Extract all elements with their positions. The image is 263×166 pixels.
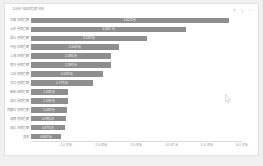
- category-label: 湖北市销售额: [10, 126, 29, 130]
- bar-row[interactable]: 新区域销售额1.05亿元: [31, 89, 242, 95]
- bar-row[interactable]: 湖北市销售额0.97亿元: [31, 125, 242, 131]
- category-label: 巴黎市销售额: [10, 18, 29, 22]
- bar-value-label: 2.05亿元: [61, 73, 73, 76]
- bar-row[interactable]: 湖南省销售额0.99亿元: [31, 116, 242, 122]
- mouse-cursor: [225, 94, 232, 103]
- filter-icon[interactable]: [232, 8, 237, 13]
- bar-value-label: 5.62亿元: [124, 19, 136, 22]
- bar-row[interactable]: 江苏省销售额2.05亿元: [31, 71, 242, 77]
- category-label: 其他: [23, 135, 29, 139]
- category-label: 河北省销售额: [10, 81, 29, 85]
- x-tick-label: 5.0 亿元: [201, 143, 213, 148]
- category-label: 新区域销售额: [10, 90, 29, 94]
- chart-title: 各省市地区销售额排名: [12, 7, 44, 12]
- bar-row[interactable]: 山东省销售额4.41亿元: [31, 27, 242, 33]
- bar-row[interactable]: 内蒙古省销售额1.03亿元: [31, 107, 242, 113]
- x-tick-label: 6.0 亿元: [236, 143, 248, 148]
- bar-row[interactable]: 湖北省销售额1.05亿元: [31, 98, 242, 104]
- bar-row[interactable]: 上海市销售额2.28亿元: [31, 53, 242, 59]
- x-axis-line: [31, 141, 242, 142]
- category-label: 南方省销售额: [10, 63, 29, 67]
- bar-value-label: 0.97亿元: [42, 126, 54, 129]
- bar-value-label: 3.31亿元: [83, 37, 95, 40]
- bar-rows: 巴黎市销售额5.62亿元山东省销售额4.41亿元浙江省销售额3.31亿元中国市销…: [31, 16, 242, 141]
- x-tick-label: 1.0 亿元: [60, 143, 72, 148]
- x-tick-label: 2.0 亿元: [95, 143, 107, 148]
- download-icon[interactable]: [240, 8, 245, 13]
- category-label: 中国市销售额: [10, 45, 29, 49]
- plot-area: 巴黎市销售额5.62亿元山东省销售额4.41亿元浙江省销售额3.31亿元中国市销…: [31, 16, 242, 141]
- bar-value-label: 2.50亿元: [69, 46, 81, 49]
- bar-value-label: 1.03亿元: [43, 108, 55, 111]
- bar-row[interactable]: 河北省销售额1.77亿元: [31, 80, 242, 86]
- category-label: 湖北省销售额: [10, 99, 29, 103]
- bar-row[interactable]: 其他0.86亿元: [31, 134, 242, 140]
- category-label: 山东省销售额: [10, 27, 29, 31]
- category-label: 浙江省销售额: [10, 36, 29, 40]
- bar-row[interactable]: 中国市销售额2.50亿元: [31, 44, 242, 50]
- bar-value-label: 4.41亿元: [102, 28, 114, 31]
- bar-row[interactable]: 南方省销售额2.28亿元: [31, 62, 242, 68]
- bar-value-label: 2.28亿元: [65, 55, 77, 58]
- bar-value-label: 1.05亿元: [43, 99, 55, 102]
- category-label: 内蒙古省销售额: [7, 108, 29, 112]
- bar-value-label: 2.28亿元: [65, 64, 77, 67]
- more-icon[interactable]: [248, 8, 253, 13]
- x-tick-label: 4.0 亿元: [166, 143, 178, 148]
- x-axis-ticks: 1.0 亿元2.0 亿元3.0 亿元4.0 亿元5.0 亿元6.0 亿元: [31, 143, 242, 151]
- bar-value-label: 1.05亿元: [43, 90, 55, 93]
- x-tick-label: 3.0 亿元: [131, 143, 143, 148]
- chart-toolbar[interactable]: [232, 7, 253, 14]
- category-label: 江苏省销售额: [10, 72, 29, 76]
- bar-value-label: 0.86亿元: [40, 135, 52, 138]
- bar-row[interactable]: 巴黎市销售额5.62亿元: [31, 18, 242, 24]
- category-label: 上海市销售额: [10, 54, 29, 58]
- category-label: 湖南省销售额: [10, 117, 29, 121]
- bar-row[interactable]: 浙江省销售额3.31亿元: [31, 36, 242, 42]
- bar-value-label: 1.77亿元: [56, 81, 68, 84]
- chart-card: 各省市地区销售额排名 巴黎市销售额5.62亿元山东省销售额4.41亿元浙江省销售…: [4, 3, 259, 156]
- bar-value-label: 0.99亿元: [42, 117, 54, 120]
